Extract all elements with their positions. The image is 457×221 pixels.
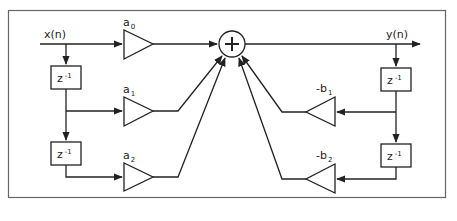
iir-filter-diagram: x(n) z-1 z-1 a0 a1 a2 <box>0 0 457 221</box>
delay-block-input-2: z-1 <box>51 142 81 165</box>
wire-a2-to-sum <box>153 58 225 177</box>
output-label: y(n) <box>386 28 408 41</box>
gain-neg-b2: -b2 <box>306 149 335 193</box>
svg-text:x(n): x(n) <box>44 28 66 41</box>
svg-text:a2: a2 <box>123 149 135 164</box>
svg-text:y(n): y(n) <box>386 28 408 41</box>
wire-a1-to-sum <box>153 56 222 111</box>
wire-out-delay2-to-b2 <box>337 167 396 179</box>
delay-block-output-2: z-1 <box>381 144 411 167</box>
svg-text:a0: a0 <box>123 16 135 31</box>
input-label: x(n) <box>44 28 66 41</box>
wire-delay2-to-a2 <box>66 165 122 177</box>
summing-junction <box>219 31 245 57</box>
svg-text:-b1: -b1 <box>316 82 332 97</box>
gain-a1: a1 <box>123 83 153 126</box>
delay-block-output-1: z-1 <box>381 68 411 91</box>
svg-text:-b2: -b2 <box>316 149 332 164</box>
svg-text:a1: a1 <box>123 83 135 98</box>
wire-b2-to-sum <box>239 58 306 179</box>
wire-b1-to-sum <box>242 56 306 112</box>
gain-neg-b1: -b1 <box>306 82 335 126</box>
gain-a2: a2 <box>123 149 153 191</box>
delay-block-input-1: z-1 <box>51 66 81 89</box>
gain-a0: a0 <box>123 16 153 59</box>
